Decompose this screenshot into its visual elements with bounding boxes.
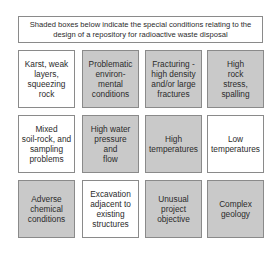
condition-box-high-temperatures: High temperatures: [145, 115, 202, 173]
condition-box-excavation-adjacent: Excavation adjacent to existing structur…: [82, 180, 139, 238]
condition-box-mixed-soil-rock: Mixed soil-rock, and sampling problems: [18, 115, 75, 173]
condition-box-rock-stress: High rock stress, spalling: [207, 50, 264, 108]
condition-box-complex-geology: Complex geology: [207, 180, 264, 238]
condition-box-unusual-objective: Unusual project objective: [145, 180, 202, 238]
condition-box-fracturing: Fracturing - high density and/or large f…: [145, 50, 202, 108]
condition-box-karst: Karst, weak layers, squeezing rock: [18, 50, 75, 108]
condition-box-low-temperatures: Low temperatures: [207, 115, 264, 173]
header-caption: Shaded boxes below indicate the special …: [18, 16, 263, 43]
condition-box-water-pressure: High water pressure and flow: [82, 115, 139, 173]
condition-box-environmental: Problematic environ- mental conditions: [82, 50, 139, 108]
condition-box-chemical: Adverse chemical conditions: [18, 180, 75, 238]
